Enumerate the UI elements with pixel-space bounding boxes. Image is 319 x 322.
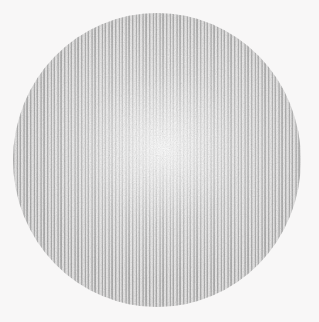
image-canvas — [0, 0, 319, 322]
vertical-stripe-fill — [13, 13, 301, 307]
striped-circle — [13, 13, 301, 307]
